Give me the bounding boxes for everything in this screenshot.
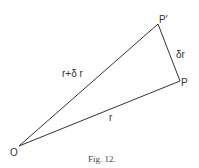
label-r-plus-delta-r: r+δ r [62,68,84,79]
label-p: P [181,77,188,88]
label-o: O [10,147,18,158]
edge-o-p-prime [19,24,158,146]
label-delta-r: δr [176,49,186,60]
triangle-diagram: P′ δr P r+δ r r O Fig. 12. [0,0,199,168]
figure-caption: Fig. 12. [88,154,116,164]
label-p-prime: P′ [159,14,168,25]
label-r: r [109,112,113,123]
edge-o-p [19,81,180,146]
